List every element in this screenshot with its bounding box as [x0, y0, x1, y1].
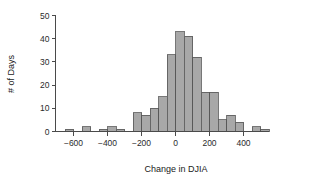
- y-tick-label: 30: [40, 57, 50, 67]
- x-tick-label: 400: [236, 138, 250, 148]
- histogram-bar: [193, 57, 202, 131]
- x-tick-label: −600: [64, 138, 83, 148]
- histogram-figure: 01020304050 −600−400−2000200400 Change i…: [0, 0, 321, 181]
- y-tick-label: 50: [40, 11, 50, 21]
- x-tick-label: 0: [173, 138, 178, 148]
- y-tick-label: 0: [45, 127, 50, 137]
- histogram-bar: [218, 120, 227, 132]
- histogram-svg: 01020304050 −600−400−2000200400 Change i…: [0, 0, 321, 181]
- y-tick-label: 10: [40, 103, 50, 113]
- histogram-bar: [176, 32, 185, 132]
- histogram-bar: [150, 108, 159, 131]
- bars-group: [65, 32, 269, 132]
- histogram-bar: [184, 36, 193, 131]
- x-tick-label: −200: [132, 138, 151, 148]
- x-tick-label: 200: [202, 138, 216, 148]
- y-axis-ticks: 01020304050: [40, 11, 55, 137]
- histogram-bar: [108, 127, 117, 132]
- histogram-bar: [201, 92, 210, 131]
- y-tick-label: 20: [40, 80, 50, 90]
- x-axis-title: Change in DJIA: [144, 164, 207, 174]
- x-tick-label: −400: [98, 138, 117, 148]
- histogram-bar: [252, 127, 261, 132]
- histogram-bar: [133, 113, 142, 132]
- histogram-bar: [210, 92, 219, 131]
- histogram-bar: [227, 115, 236, 131]
- histogram-bar: [235, 122, 244, 131]
- histogram-bar: [142, 115, 151, 131]
- histogram-bar: [82, 127, 91, 132]
- x-axis-ticks: −600−400−2000200400: [64, 132, 251, 148]
- y-tick-label: 40: [40, 34, 50, 44]
- y-axis-title: # of Days: [6, 54, 16, 93]
- histogram-bar: [159, 97, 168, 132]
- histogram-bar: [167, 55, 176, 132]
